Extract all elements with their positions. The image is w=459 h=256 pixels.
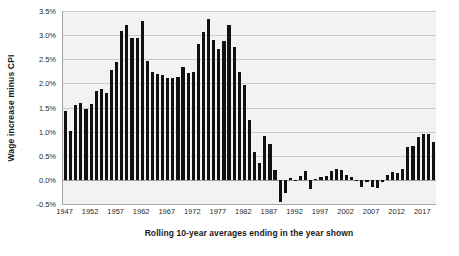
bar-series bbox=[63, 11, 436, 204]
bar bbox=[289, 178, 292, 179]
y-tick-label: 3.0% bbox=[39, 31, 56, 40]
x-tick-label: 1997 bbox=[312, 207, 329, 216]
bar bbox=[325, 176, 328, 180]
bar bbox=[365, 180, 368, 182]
bar bbox=[263, 136, 266, 179]
bar bbox=[217, 49, 220, 180]
y-tick-label: 2.5% bbox=[39, 55, 56, 64]
bar bbox=[279, 180, 282, 202]
bar bbox=[386, 175, 389, 180]
bar bbox=[176, 77, 179, 180]
bar bbox=[212, 40, 215, 179]
x-tick-label: 1972 bbox=[184, 207, 201, 216]
bar bbox=[294, 180, 297, 181]
x-axis-tick-labels: 1947195219571962196719721977198219871992… bbox=[62, 207, 436, 221]
bar bbox=[105, 93, 108, 180]
bar bbox=[69, 131, 72, 180]
x-tick-label: 1947 bbox=[56, 207, 73, 216]
gridline bbox=[63, 204, 436, 205]
y-axis-tick-labels: 3.5%3.0%2.5%2.0%1.5%1.0%0.5%0.0%-0.5% bbox=[22, 0, 60, 215]
y-axis-title: Wage increase minus CPI bbox=[0, 0, 22, 215]
x-tick-label: 1952 bbox=[82, 207, 99, 216]
bar bbox=[432, 142, 435, 180]
y-tick-label: 1.5% bbox=[39, 103, 56, 112]
y-tick-label: -0.5% bbox=[36, 200, 56, 209]
bar bbox=[100, 89, 103, 180]
bar bbox=[304, 171, 307, 180]
bar bbox=[171, 78, 174, 180]
plot-area bbox=[62, 11, 436, 205]
bar bbox=[141, 21, 144, 180]
bar bbox=[335, 169, 338, 180]
x-tick-label: 1982 bbox=[235, 207, 252, 216]
y-axis-title-text: Wage increase minus CPI bbox=[6, 54, 16, 161]
x-tick-label: 2012 bbox=[388, 207, 405, 216]
bar bbox=[125, 25, 128, 180]
bar bbox=[156, 74, 159, 180]
x-tick-label: 1962 bbox=[133, 207, 150, 216]
bar bbox=[238, 72, 241, 180]
x-tick-label: 1992 bbox=[286, 207, 303, 216]
bar bbox=[396, 173, 399, 180]
bar bbox=[227, 25, 230, 179]
bar bbox=[243, 85, 246, 180]
bar bbox=[197, 44, 200, 180]
bar bbox=[90, 104, 93, 180]
bar bbox=[248, 120, 251, 180]
bar bbox=[417, 137, 420, 179]
x-tick-label: 2017 bbox=[414, 207, 431, 216]
chart-root: Wage increase minus CPI 3.5%3.0%2.5%2.0%… bbox=[0, 0, 459, 256]
bar bbox=[115, 62, 118, 180]
bar bbox=[360, 180, 363, 187]
bar bbox=[161, 75, 164, 180]
x-axis-title: Rolling 10-year averages ending in the y… bbox=[62, 228, 436, 238]
bar bbox=[207, 19, 210, 180]
bar bbox=[355, 180, 358, 181]
bar bbox=[314, 179, 317, 180]
bar bbox=[120, 31, 123, 180]
bar bbox=[110, 70, 113, 180]
y-tick-label: 0.0% bbox=[39, 175, 56, 184]
y-tick-label: 0.5% bbox=[39, 151, 56, 160]
bar bbox=[233, 47, 236, 180]
bar bbox=[340, 170, 343, 180]
bar bbox=[79, 103, 82, 180]
bar bbox=[136, 38, 139, 180]
bar bbox=[284, 180, 287, 193]
bar bbox=[401, 169, 404, 180]
x-tick-label: 2007 bbox=[363, 207, 380, 216]
bar bbox=[130, 38, 133, 180]
y-tick-label: 1.0% bbox=[39, 127, 56, 136]
bar bbox=[166, 78, 169, 180]
bar bbox=[146, 61, 149, 180]
bar bbox=[222, 41, 225, 179]
bar bbox=[151, 72, 154, 180]
bar bbox=[84, 109, 87, 179]
bar bbox=[411, 146, 414, 180]
bar bbox=[330, 171, 333, 180]
bar bbox=[376, 180, 379, 188]
bar bbox=[192, 72, 195, 180]
x-tick-label: 1977 bbox=[209, 207, 226, 216]
bar bbox=[299, 176, 302, 180]
bar bbox=[74, 105, 77, 180]
bar bbox=[95, 91, 98, 180]
bar bbox=[391, 172, 394, 180]
bar bbox=[422, 134, 425, 180]
y-tick-label: 2.0% bbox=[39, 79, 56, 88]
bar bbox=[309, 180, 312, 189]
x-tick-label: 2002 bbox=[337, 207, 354, 216]
bar bbox=[345, 175, 348, 180]
bar bbox=[381, 180, 384, 182]
bar bbox=[187, 73, 190, 180]
bar bbox=[350, 177, 353, 180]
bar bbox=[268, 144, 271, 180]
bar bbox=[319, 177, 322, 179]
bar bbox=[202, 32, 205, 180]
bar bbox=[371, 180, 374, 187]
bar bbox=[181, 67, 184, 179]
y-tick-label: 3.5% bbox=[39, 7, 56, 16]
x-tick-label: 1967 bbox=[158, 207, 175, 216]
bar bbox=[253, 152, 256, 180]
bar bbox=[406, 147, 409, 180]
